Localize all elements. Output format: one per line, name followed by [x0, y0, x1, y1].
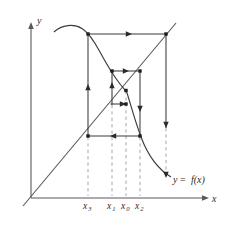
- tick-label-x2-base: x: [134, 201, 140, 211]
- tick-label-x1-base: x: [106, 201, 112, 211]
- curve-label-group: y = f(x): [172, 174, 206, 186]
- node-dot-x2-on-curve: [138, 134, 141, 137]
- tick-label-x3-sub: 3: [87, 205, 92, 212]
- tick-label-x0: x 0: [120, 201, 130, 212]
- y-axis-label: y: [36, 15, 42, 26]
- tick-label-x2-sub: 2: [140, 205, 144, 212]
- cobweb-arrow-top-right: [126, 31, 132, 36]
- diagram-canvas: y x y = f(x) x 3 x 1 x 0 x 2: [0, 0, 226, 229]
- tick-label-x1-sub: 1: [112, 205, 115, 212]
- tick-label-x1: x 1: [106, 201, 116, 212]
- node-dot-fixed-point: [124, 89, 127, 92]
- node-dot-x3-on-curve: [86, 32, 89, 35]
- tick-label-x3-base: x: [82, 201, 88, 211]
- node-dot-x2-upper: [138, 69, 141, 72]
- cobweb-arrow-lower-left: [110, 133, 116, 138]
- dashed-drop-lines-group: [88, 91, 166, 196]
- cobweb-arrow-right-down: [163, 122, 168, 128]
- tick-labels-group: x 3 x 1 x 0 x 2: [82, 201, 144, 212]
- tick-label-x0-sub: 0: [126, 205, 130, 212]
- cobweb-arrow-x3-up: [85, 84, 90, 90]
- x-axis-arrowhead: [202, 195, 209, 201]
- cobweb-arrow-upper-right: [123, 68, 129, 73]
- tick-label-x3: x 3: [82, 201, 92, 212]
- cobweb-arrow-x2-down: [137, 106, 142, 112]
- node-dot-top-right: [164, 32, 167, 35]
- cobweb-diagram-figure: y x y = f(x) x 3 x 1 x 0 x 2: [0, 0, 226, 229]
- node-dot-x1-on-curve: [110, 69, 113, 72]
- cobweb-arrow-x1-up: [109, 82, 114, 88]
- tick-label-x0-base: x: [120, 201, 126, 211]
- tick-label-x2: x 2: [134, 201, 144, 212]
- curve-label-equals: =: [180, 174, 186, 185]
- node-dot-x3-lower: [86, 134, 89, 137]
- y-axis-arrowhead: [28, 22, 34, 29]
- curve-label-fx: f(x): [191, 174, 206, 186]
- node-dot-x0-on-curve: [124, 102, 127, 105]
- curve-label-y: y: [172, 174, 178, 185]
- x-axis-label: x: [211, 193, 217, 204]
